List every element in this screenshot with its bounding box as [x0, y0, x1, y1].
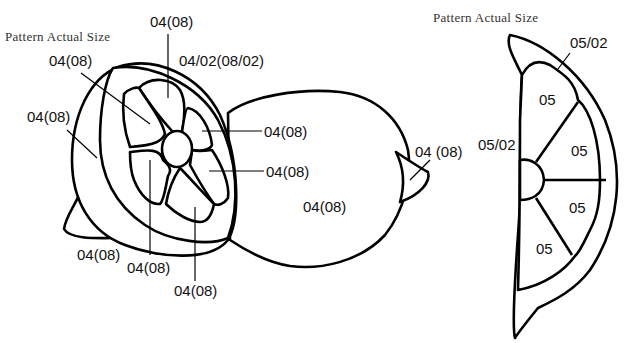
label-bottom-segment: 04(08): [174, 283, 217, 298]
label-right-upper-segment: 04(08): [264, 124, 307, 139]
label-rind-inner: 04/02(08/02): [179, 53, 264, 68]
label-lower-left-segment: 04(08): [127, 260, 170, 275]
right-pattern-title: Pattern Actual Size: [433, 11, 538, 24]
label-rind-left: 05/02: [478, 137, 516, 152]
label-segment-4: 05: [536, 241, 553, 256]
label-segment-2: 05: [571, 143, 588, 158]
left-pattern-title: Pattern Actual Size: [5, 30, 110, 43]
segment-center: [162, 131, 192, 167]
label-whole-lemon-body: 04(08): [303, 199, 346, 214]
label-segment-3: 05: [569, 200, 586, 215]
label-lemon-tip: 04 (08): [415, 144, 463, 159]
label-right-lower-segment: 04(08): [266, 164, 309, 179]
label-left-tip: 04(08): [77, 247, 120, 262]
label-rind-top: 05/02: [570, 35, 608, 50]
label-top-segment: 04(08): [150, 14, 193, 29]
lemon-pattern-diagram: Pattern Actual Size Pattern Actual Size …: [0, 0, 642, 343]
whole-lemon-body: [228, 91, 409, 267]
pattern-artwork: [0, 0, 642, 343]
label-outer-rind: 04(08): [27, 109, 70, 124]
label-segment-1: 05: [539, 92, 556, 107]
label-upper-left-segment: 04(08): [49, 53, 92, 68]
